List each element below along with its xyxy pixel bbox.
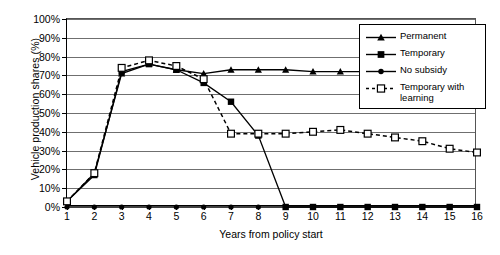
y-axis-tick-label: 0% [45, 201, 60, 213]
x-axis-tick-label: 1 [64, 210, 70, 222]
y-axis-tick-label: 20% [39, 163, 60, 175]
x-axis-tick-label: 6 [201, 210, 207, 222]
legend-item-no-subsidy[interactable]: No subsidy [364, 64, 481, 77]
legend-marker-circle-filled-icon [364, 64, 398, 77]
data-point-marker [392, 134, 399, 141]
y-axis-tick-label: 70% [39, 69, 60, 81]
data-point-marker [447, 204, 452, 209]
legend-label: Permanent [398, 30, 446, 41]
y-axis-tick-label: 40% [39, 126, 60, 138]
legend-item-permanent[interactable]: Permanent [364, 30, 481, 43]
legend-marker-square-filled-icon [364, 47, 398, 60]
data-point-marker [119, 204, 124, 209]
data-point-marker [283, 204, 288, 209]
x-axis-tick-label: 5 [173, 210, 179, 222]
y-axis-tick-label: 10% [39, 182, 60, 194]
y-axis-tick-label: 80% [39, 51, 60, 63]
legend-label: Temporary [398, 47, 445, 58]
data-point-marker [228, 204, 233, 209]
x-axis-tick-label: 8 [255, 210, 261, 222]
x-axis-tick-label: 10 [307, 210, 319, 222]
data-point-marker [364, 130, 371, 137]
data-point-marker [200, 76, 207, 83]
x-axis-tick-label: 15 [444, 210, 456, 222]
chart-legend: PermanentTemporaryNo subsidyTemporary wi… [359, 24, 486, 109]
series-no-subsidy [64, 204, 479, 209]
data-point-marker [201, 204, 206, 209]
legend-item-temporary-with-learning[interactable]: Temporary withlearning [364, 81, 481, 103]
data-point-marker [419, 138, 426, 145]
x-axis-title: Years from policy start [66, 228, 476, 240]
data-point-marker [337, 127, 344, 134]
data-point-marker [282, 130, 289, 137]
y-axis-tick-label: 90% [39, 32, 60, 44]
data-point-marker [392, 204, 397, 209]
data-point-marker [92, 204, 97, 209]
data-point-marker [91, 170, 98, 177]
data-point-marker [446, 145, 453, 152]
y-axis-tick-label: 100% [33, 13, 60, 25]
data-point-marker [146, 204, 151, 209]
data-point-marker [310, 204, 315, 209]
x-axis-tick-label: 13 [389, 210, 401, 222]
data-point-marker [338, 204, 343, 209]
legend-marker-triangle-icon [364, 30, 398, 43]
data-point-marker [310, 128, 317, 135]
x-axis-tick-label: 4 [146, 210, 152, 222]
legend-item-temporary[interactable]: Temporary [364, 47, 481, 60]
x-axis-tick-label: 14 [416, 210, 428, 222]
legend-label: No subsidy [398, 64, 447, 75]
chart-figure: Vehicle production shares (%) 0%10%20%30… [0, 0, 500, 255]
data-point-marker [118, 64, 125, 71]
legend-marker-square-open-icon [364, 81, 398, 94]
x-axis-tick-label: 16 [471, 210, 483, 222]
data-point-marker [474, 204, 479, 209]
x-axis-tick-label: 3 [119, 210, 125, 222]
y-axis-tick-label: 60% [39, 88, 60, 100]
data-point-marker [255, 130, 262, 137]
data-point-marker [174, 204, 179, 209]
data-point-marker [228, 99, 234, 105]
data-point-marker [420, 204, 425, 209]
x-axis-tick-label: 7 [228, 210, 234, 222]
data-point-marker [173, 63, 180, 70]
x-axis-tick-label: 2 [91, 210, 97, 222]
y-axis-tick-label: 30% [39, 145, 60, 157]
x-axis-tick-label: 12 [362, 210, 374, 222]
legend-label: Temporary withlearning [398, 81, 464, 103]
x-axis-tick-label: 11 [335, 210, 346, 222]
data-point-marker [146, 57, 153, 64]
data-point-marker [64, 198, 71, 205]
data-point-marker [365, 204, 370, 209]
data-point-marker [474, 149, 481, 156]
data-point-marker [228, 130, 235, 137]
y-axis-tick-label: 50% [39, 107, 60, 119]
data-point-marker [256, 204, 261, 209]
x-axis-tick-label: 9 [283, 210, 289, 222]
